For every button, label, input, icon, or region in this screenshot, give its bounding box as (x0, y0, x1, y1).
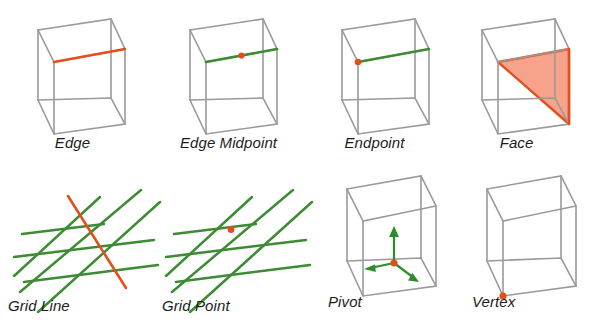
midpoint-dot-marker (238, 52, 244, 58)
grid-point-illustration (160, 172, 313, 312)
panel-face: Face (452, 6, 605, 172)
panel-grid-line: Grid Line (8, 172, 161, 332)
panel-edge-midpoint: Edge Midpoint (160, 6, 313, 172)
panel-label-face: Face (440, 134, 593, 151)
highlight-edge (358, 49, 429, 62)
panel-label-vertex: Vertex (450, 293, 613, 310)
grid-intersection-dot-marker (228, 226, 235, 233)
pivot-axis-gizmo (370, 231, 414, 278)
pivot-axis-arrowheads (364, 226, 419, 282)
panel-vertex: Vertex (470, 168, 613, 332)
grid-line-illustration (8, 172, 161, 312)
cube-edge-illustration (8, 6, 161, 146)
cube-edge-midpoint-illustration (160, 6, 313, 146)
highlight-edge (54, 49, 125, 62)
snap-targets-figure: Edge Edge Midpoint (0, 0, 613, 332)
panel-label-grid-line: Grid Line (0, 297, 161, 314)
cube-face-illustration (452, 6, 605, 146)
panel-edge: Edge (8, 6, 161, 172)
panel-label-grid-point: Grid Point (140, 297, 315, 314)
endpoint-dot-marker (355, 59, 362, 66)
panel-label-edge: Edge (0, 134, 149, 151)
panel-label-edge-midpoint: Edge Midpoint (152, 134, 305, 151)
panel-label-endpoint: Endpoint (298, 134, 451, 151)
cube-vertex-illustration (470, 168, 613, 308)
panel-grid-point: Grid Point (160, 172, 313, 332)
cube-endpoint-illustration (312, 6, 465, 146)
pivot-center-dot-marker (390, 259, 397, 266)
cube-pivot-illustration (330, 168, 483, 308)
